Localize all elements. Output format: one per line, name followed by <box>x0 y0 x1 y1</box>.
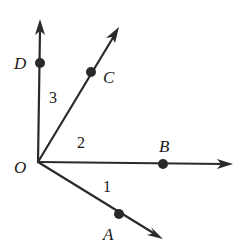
ray-od <box>35 19 45 162</box>
angle-label-2: 2 <box>77 134 85 151</box>
arrowhead-icon <box>147 227 163 239</box>
angle-label-1: 1 <box>103 178 111 195</box>
angle-diagram: D C B O A 3 2 1 <box>0 0 243 243</box>
point-b <box>158 159 168 169</box>
label-o: O <box>14 158 26 177</box>
label-d: D <box>13 54 27 73</box>
label-b: B <box>159 137 170 156</box>
label-a: A <box>102 225 114 243</box>
point-a <box>114 209 124 219</box>
point-d <box>35 58 45 68</box>
ray-oa <box>38 162 163 239</box>
label-c: C <box>103 68 115 87</box>
angle-label-3: 3 <box>49 89 57 106</box>
ray-ob <box>38 159 233 169</box>
point-c <box>86 67 96 77</box>
